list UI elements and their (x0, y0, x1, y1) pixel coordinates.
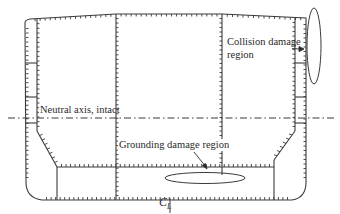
stiffener-tick (283, 142, 286, 143)
neutral-axis-label: Neutral axis, intact (40, 104, 120, 115)
grounding-damage-region (165, 173, 245, 184)
stiffener-tick (45, 143, 48, 144)
centerline-label: CL (159, 195, 172, 211)
stiffener-tick (289, 134, 292, 135)
collision-damage-label-line1: Collision damage (227, 36, 301, 47)
stiffener-tick (40, 134, 43, 135)
collision-arrowhead (299, 47, 304, 52)
stiffener-tick (47, 148, 50, 149)
stiffener-tick (55, 161, 58, 162)
stiffener-tick (274, 155, 277, 156)
stiffener-tick (280, 146, 283, 147)
stiffener-tick (50, 152, 53, 153)
stiffener-tick (277, 151, 280, 152)
stiffener-tick (42, 139, 45, 140)
grounding-damage-label: Grounding damage region (119, 139, 230, 150)
midship-section-diagram: Neutral axis, intact Grounding damage re… (0, 0, 340, 214)
stiffener-tick (286, 138, 289, 139)
collision-damage-label-line2: region (227, 49, 255, 60)
collision-damage-region (307, 8, 321, 84)
stiffener-tick (52, 157, 55, 158)
